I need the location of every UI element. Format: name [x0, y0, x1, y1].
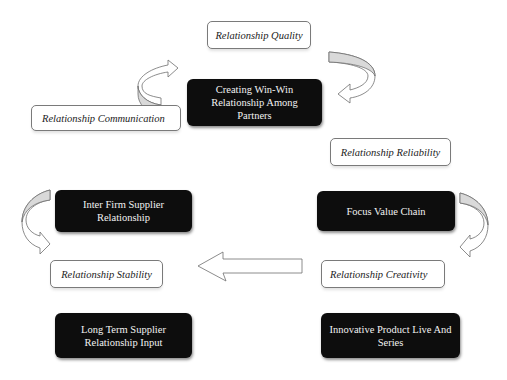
focus-value-chain-box: Focus Value Chain — [317, 191, 455, 231]
curved-arrow-down-left-right-side-icon — [458, 191, 498, 261]
relationship-creativity-text: Relationship Creativity — [330, 269, 427, 280]
relationship-stability-label: Relationship Stability — [50, 260, 163, 288]
relationship-reliability-text: Relationship Reliability — [341, 147, 440, 158]
focus-value-chain-text: Focus Value Chain — [346, 205, 425, 218]
relationship-quality-label: Relationship Quality — [207, 21, 311, 49]
center-win-win-box: Creating Win-Win Relationship Among Part… — [187, 79, 322, 126]
long-term-supplier-box: Long Term Supplier Relationship Input — [55, 313, 192, 358]
relationship-quality-text: Relationship Quality — [215, 30, 302, 41]
relationship-reliability-label: Relationship Reliability — [330, 138, 451, 166]
inter-firm-supplier-box: Inter Firm Supplier Relationship — [55, 190, 192, 232]
curved-arrow-down-left-icon — [328, 48, 388, 118]
left-arrow-icon — [197, 251, 305, 283]
relationship-communication-label: Relationship Communication — [31, 105, 181, 131]
relationship-creativity-label: Relationship Creativity — [321, 260, 445, 288]
center-win-win-text: Creating Win-Win Relationship Among Part… — [195, 83, 314, 122]
long-term-supplier-text: Long Term Supplier Relationship Input — [63, 323, 184, 349]
curved-arrow-down-right-icon — [18, 188, 58, 258]
inter-firm-supplier-text: Inter Firm Supplier Relationship — [63, 198, 184, 224]
relationship-stability-text: Relationship Stability — [61, 269, 152, 280]
innovative-product-text: Innovative Product Live And Series — [329, 323, 452, 349]
relationship-communication-text: Relationship Communication — [42, 113, 165, 124]
innovative-product-box: Innovative Product Live And Series — [321, 313, 460, 358]
